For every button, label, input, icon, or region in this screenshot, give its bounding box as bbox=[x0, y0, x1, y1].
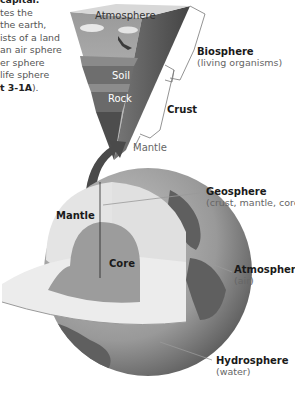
biosphere-title: Biosphere bbox=[197, 46, 254, 57]
mantle-top-label: Mantle bbox=[133, 142, 167, 153]
wedge-soil-label: Soil bbox=[112, 70, 130, 81]
atmosphere-label: Atmosphere (air) bbox=[234, 264, 295, 286]
geosphere-title: Geosphere bbox=[206, 186, 267, 197]
core-title: Core bbox=[109, 258, 135, 269]
hydrosphere-label: Hydrosphere (water) bbox=[216, 355, 289, 377]
hydrosphere-subtitle: (water) bbox=[216, 366, 289, 377]
wedge-rock-label: Rock bbox=[108, 93, 132, 104]
geosphere-label: Geosphere (crust, mantle, core) bbox=[206, 186, 295, 208]
geosphere-subtitle: (crust, mantle, core) bbox=[206, 197, 295, 208]
atmosphere-title: Atmosphere bbox=[234, 264, 295, 275]
wedge-atmosphere-label: Atmosphere bbox=[95, 10, 156, 21]
mantle-top-title: Mantle bbox=[133, 142, 167, 153]
mantle-inner-label: Mantle bbox=[56, 210, 95, 221]
core-label: Core bbox=[109, 258, 135, 269]
hydrosphere-title: Hydrosphere bbox=[216, 355, 289, 366]
crust-label: Crust bbox=[167, 104, 197, 115]
biosphere-label: Biosphere (living organisms) bbox=[197, 46, 282, 68]
mantle-inner-title: Mantle bbox=[56, 210, 95, 221]
crust-title: Crust bbox=[167, 104, 197, 115]
biosphere-subtitle: (living organisms) bbox=[197, 57, 282, 68]
atmosphere-subtitle: (air) bbox=[234, 275, 295, 286]
